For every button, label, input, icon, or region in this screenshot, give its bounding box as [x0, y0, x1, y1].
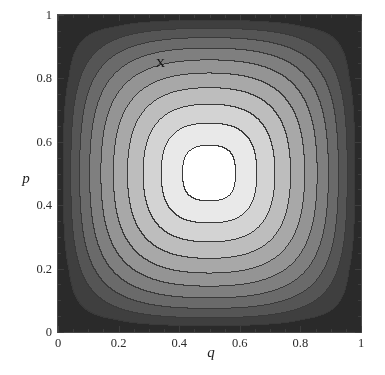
y-axis-major-tick-right: [355, 332, 361, 333]
y-axis-minor-tick-right: [358, 94, 361, 95]
y-axis-minor-tick-right: [358, 189, 361, 190]
y-axis-minor-tick-right: [358, 300, 361, 301]
y-axis-major-tick: [58, 78, 64, 79]
y-axis-minor-tick-right: [358, 284, 361, 285]
y-axis-tick-label: 0.2: [31, 261, 52, 276]
y-axis-minor-tick: [58, 300, 61, 301]
x-axis-minor-tick: [149, 329, 150, 332]
y-axis-minor-tick: [58, 174, 61, 175]
y-axis-minor-tick: [58, 158, 61, 159]
y-axis-minor-tick: [58, 63, 61, 64]
x-axis-minor-tick-top: [149, 15, 150, 18]
plot-frame: X: [57, 14, 362, 333]
x-axis-major-tick: [119, 326, 120, 332]
y-axis-major-tick-right: [355, 205, 361, 206]
y-axis-tick-label: 0: [31, 325, 52, 340]
y-axis-minor-tick: [58, 221, 61, 222]
x-axis-major-tick: [300, 326, 301, 332]
x-axis-minor-tick-top: [103, 15, 104, 18]
y-axis-minor-tick: [58, 110, 61, 111]
x-axis-minor-tick-top: [331, 15, 332, 18]
x-axis-minor-tick: [255, 329, 256, 332]
y-axis-major-tick: [58, 142, 64, 143]
x-axis-minor-tick-top: [270, 15, 271, 18]
x-axis-major-tick-top: [179, 15, 180, 21]
y-axis-major-tick: [58, 205, 64, 206]
x-axis-minor-tick: [270, 329, 271, 332]
y-axis-minor-tick-right: [358, 47, 361, 48]
x-axis-major-tick: [240, 326, 241, 332]
x-axis-minor-tick-top: [88, 15, 89, 18]
x-axis-minor-tick-top: [285, 15, 286, 18]
x-axis-minor-tick-top: [164, 15, 165, 18]
y-axis-major-tick: [58, 269, 64, 270]
x-axis-minor-tick: [73, 329, 74, 332]
x-axis-title: q: [207, 344, 215, 361]
x-axis-minor-tick: [331, 329, 332, 332]
x-axis-minor-tick-top: [255, 15, 256, 18]
y-axis-minor-tick-right: [358, 158, 361, 159]
x-axis-minor-tick: [194, 329, 195, 332]
y-axis-minor-tick-right: [358, 253, 361, 254]
x-axis-major-tick: [179, 326, 180, 332]
y-axis-minor-tick-right: [358, 174, 361, 175]
x-axis-major-tick: [361, 326, 362, 332]
x-axis-minor-tick-top: [316, 15, 317, 18]
y-axis-minor-tick: [58, 237, 61, 238]
y-axis-minor-tick-right: [358, 63, 361, 64]
y-axis-minor-tick-right: [358, 110, 361, 111]
y-axis-minor-tick-right: [358, 31, 361, 32]
x-axis-minor-tick: [134, 329, 135, 332]
x-axis-minor-tick-top: [73, 15, 74, 18]
y-axis-minor-tick: [58, 126, 61, 127]
y-axis-minor-tick-right: [358, 126, 361, 127]
x-axis-major-tick-top: [361, 15, 362, 21]
y-axis-title: p: [22, 170, 30, 187]
y-axis-major-tick-right: [355, 269, 361, 270]
y-axis-tick-label: 0.8: [31, 71, 52, 86]
x-axis-minor-tick-top: [194, 15, 195, 18]
figure-canvas: X 00.20.40.60.8100.20.40.60.81 q p: [0, 0, 385, 375]
x-axis-tick-label: 0: [55, 336, 61, 351]
x-axis-minor-tick: [346, 329, 347, 332]
x-axis-minor-tick-top: [134, 15, 135, 18]
y-axis-tick-label: 0.6: [31, 134, 52, 149]
x-axis-tick-label: 0.8: [293, 336, 309, 351]
x-axis-major-tick-top: [240, 15, 241, 21]
y-axis-minor-tick-right: [358, 237, 361, 238]
x-axis-minor-tick-top: [346, 15, 347, 18]
y-axis-minor-tick: [58, 316, 61, 317]
y-axis-major-tick-right: [355, 15, 361, 16]
x-axis-tick-label: 0.4: [171, 336, 187, 351]
y-axis-minor-tick: [58, 31, 61, 32]
x-axis-minor-tick: [103, 329, 104, 332]
x-axis-minor-tick: [164, 329, 165, 332]
x-axis-tick-label: 0.6: [232, 336, 248, 351]
y-axis-major-tick-right: [355, 78, 361, 79]
y-axis-major-tick: [58, 332, 64, 333]
y-axis-minor-tick: [58, 189, 61, 190]
y-axis-minor-tick: [58, 94, 61, 95]
x-axis-major-tick-top: [119, 15, 120, 21]
y-axis-minor-tick: [58, 284, 61, 285]
x-axis-major-tick-top: [300, 15, 301, 21]
y-axis-minor-tick: [58, 253, 61, 254]
y-axis-minor-tick-right: [358, 316, 361, 317]
y-axis-minor-tick-right: [358, 221, 361, 222]
x-axis-tick-label: 1: [358, 336, 364, 351]
y-axis-tick-label: 1: [31, 8, 52, 23]
x-axis-tick-label: 0.2: [111, 336, 127, 351]
x-axis-minor-tick: [225, 329, 226, 332]
x-axis-minor-tick-top: [225, 15, 226, 18]
x-axis-minor-tick-top: [210, 15, 211, 18]
x-axis-minor-tick: [316, 329, 317, 332]
x-axis-minor-tick: [210, 329, 211, 332]
y-axis-major-tick-right: [355, 142, 361, 143]
y-axis-tick-label: 0.4: [31, 198, 52, 213]
x-axis-minor-tick: [88, 329, 89, 332]
contour-plot-surface: [58, 15, 361, 332]
y-axis-minor-tick: [58, 47, 61, 48]
y-axis-major-tick: [58, 15, 64, 16]
x-axis-minor-tick: [285, 329, 286, 332]
